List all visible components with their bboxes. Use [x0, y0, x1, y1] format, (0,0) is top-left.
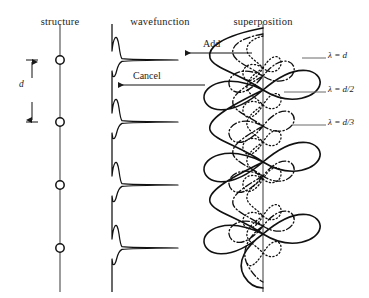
- cancel-label: Cancel: [133, 70, 161, 81]
- atom-node: [56, 56, 64, 64]
- add-label: Add: [203, 38, 220, 49]
- structure-chain: [56, 24, 64, 292]
- wavefunction-curve: [112, 24, 178, 292]
- atom-node: [56, 118, 64, 126]
- atom-node: [56, 181, 64, 189]
- wave-label-lambda-d-2: λ = d/2: [328, 84, 354, 94]
- diagram-artwork: [0, 0, 369, 298]
- lattice-spacing-dimension: [26, 60, 38, 122]
- lambda-leader-lines: [284, 58, 326, 125]
- atom-node: [56, 244, 64, 252]
- wave-label-lambda-d: λ = d: [328, 50, 347, 60]
- figure-canvas: structure wavefunction superposition: [0, 0, 369, 298]
- lattice-spacing-label: d: [19, 79, 24, 89]
- wave-label-lambda-d-3: λ = d/3: [328, 117, 354, 127]
